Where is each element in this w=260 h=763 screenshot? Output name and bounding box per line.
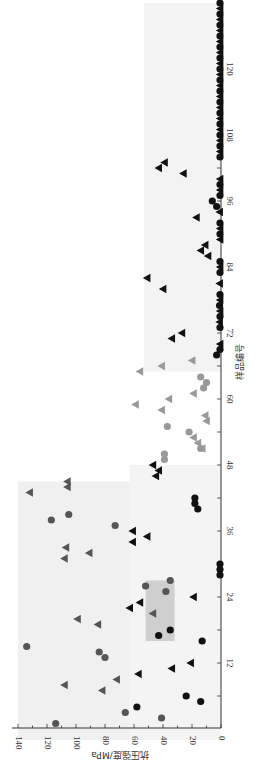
data-point-circle (161, 450, 168, 457)
group-1-left (18, 482, 130, 741)
data-point-triangle (136, 367, 144, 375)
data-point-circle (96, 648, 103, 655)
data-point-triangle (165, 395, 173, 403)
data-point-circle (155, 632, 162, 639)
value-tick-label: 120 (43, 736, 53, 750)
data-point-circle (197, 373, 204, 380)
value-tick-label: 0 (217, 736, 227, 741)
data-point-circle (183, 692, 190, 699)
data-point-circle (216, 560, 223, 567)
value-tick-label: 140 (14, 736, 24, 750)
background-regions (18, 3, 221, 740)
data-point-circle (191, 494, 198, 501)
data-point-circle (216, 219, 223, 226)
sample-tick-label: 60 (225, 395, 235, 405)
data-point-circle (167, 626, 174, 633)
data-point-circle (52, 720, 59, 727)
data-point-circle (164, 423, 171, 430)
group-1-right (130, 465, 221, 740)
sample-tick-label: 108 (225, 128, 235, 142)
sample-axis-title: 样品编号 (234, 344, 245, 380)
data-point-circle (216, 258, 223, 265)
value-axis-title: 抗压强度/MPa (91, 750, 148, 761)
data-point-circle (48, 516, 55, 523)
data-point-circle (122, 709, 129, 716)
data-point-circle (158, 714, 165, 721)
sample-tick-label: 72 (225, 329, 235, 338)
data-point-triangle (201, 411, 209, 419)
data-point-circle (65, 511, 72, 518)
value-tick-label: 20 (188, 736, 198, 746)
data-point-circle (186, 428, 193, 435)
value-tick-label: 100 (72, 736, 82, 750)
sample-tick-label: 96 (225, 197, 235, 207)
data-point-circle (209, 197, 216, 204)
sample-tick-label: 12 (225, 659, 235, 668)
data-point-circle (133, 703, 140, 710)
value-tick-label: 40 (159, 736, 169, 746)
data-point-circle (199, 637, 206, 644)
data-point-circle (162, 588, 169, 595)
sample-tick-label: 48 (225, 461, 235, 471)
value-tick-label: 80 (101, 736, 111, 746)
scatter-chart: 020406080100120140 122436486072849610812… (0, 0, 260, 763)
sample-tick-label: 24 (225, 593, 235, 603)
group-3 (144, 3, 221, 372)
data-point-triangle (131, 400, 139, 408)
data-point-triangle (189, 389, 197, 397)
value-tick-label: 60 (130, 736, 140, 746)
data-point-circle (167, 577, 174, 584)
data-point-circle (197, 698, 204, 705)
data-point-circle (23, 643, 30, 650)
sample-tick-label: 120 (225, 62, 235, 76)
data-point-circle (203, 379, 210, 386)
data-point-circle (101, 654, 108, 661)
data-point-circle (112, 522, 119, 529)
data-point-triangle (157, 406, 165, 414)
data-point-circle (216, 291, 223, 298)
sample-tick-label: 36 (225, 527, 235, 537)
data-point-circle (142, 582, 149, 589)
sample-tick-label: 84 (225, 263, 235, 273)
